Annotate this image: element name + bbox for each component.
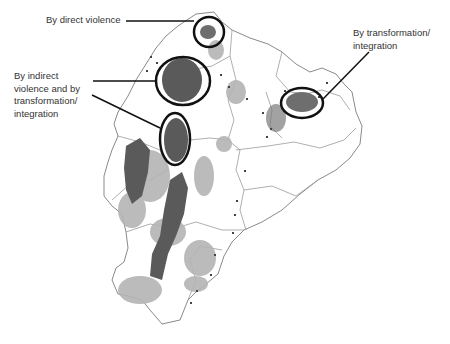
label-indirect-violence: By indirect violence and by transformati… [14,70,80,120]
label-transformation: By transformation/ integration [353,27,430,52]
label-direct-violence: By direct violence [46,14,120,27]
